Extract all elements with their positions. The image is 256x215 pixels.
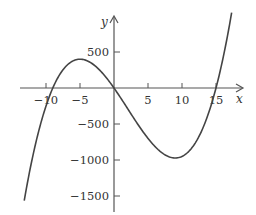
- function-plot: −10−551015 500−500−1000−1500 x y: [0, 0, 256, 215]
- y-tick-label: 500: [87, 45, 109, 59]
- x-ticks: −10−551015: [34, 83, 223, 107]
- y-tick-label: −1500: [70, 189, 109, 203]
- y-tick-label: −500: [77, 117, 109, 131]
- x-tick-label: 5: [144, 93, 151, 107]
- x-axis-label: x: [236, 92, 243, 106]
- y-axis-label: y: [100, 15, 108, 29]
- y-ticks: 500−500−1000−1500: [70, 45, 120, 203]
- x-tick-label: −5: [72, 93, 89, 107]
- x-tick-label: 10: [175, 93, 190, 107]
- y-tick-label: −1000: [70, 153, 109, 167]
